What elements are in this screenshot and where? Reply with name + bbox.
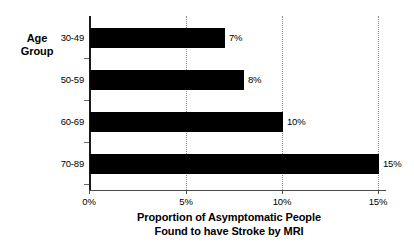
x-tick-label: 10% bbox=[262, 196, 302, 207]
bar bbox=[90, 70, 244, 90]
x-axis-line bbox=[89, 190, 386, 191]
x-tick-15 bbox=[378, 190, 379, 194]
y-category-label: 70-89 bbox=[36, 159, 84, 169]
bar bbox=[90, 112, 283, 132]
x-axis-title: Proportion of Asymptomatic People Found … bbox=[64, 211, 394, 238]
y-category-label: 60-69 bbox=[36, 117, 84, 127]
bar bbox=[90, 28, 225, 48]
y-category-label: 50-59 bbox=[36, 75, 84, 85]
bar bbox=[90, 154, 379, 174]
bar-value-label: 8% bbox=[248, 75, 261, 85]
x-axis-title-line2: Found to have Stroke by MRI bbox=[64, 225, 394, 239]
y-category-label: 30-49 bbox=[36, 33, 84, 43]
y-axis-title-line2: Group bbox=[4, 45, 70, 58]
x-tick-label: 0% bbox=[69, 196, 109, 207]
x-tick-label: 15% bbox=[358, 196, 398, 207]
bar-value-label: 15% bbox=[383, 159, 401, 169]
x-tick-5 bbox=[186, 190, 187, 194]
y-tick-4 bbox=[84, 184, 89, 185]
x-tick-0 bbox=[89, 190, 90, 194]
y-tick-3 bbox=[84, 142, 89, 143]
bar-value-label: 10% bbox=[287, 117, 305, 127]
y-tick-2 bbox=[84, 100, 89, 101]
y-tick-1 bbox=[84, 58, 89, 59]
x-axis-title-line1: Proportion of Asymptomatic People bbox=[64, 211, 394, 225]
x-tick-label: 5% bbox=[166, 196, 206, 207]
bar-value-label: 7% bbox=[229, 33, 242, 43]
bar-chart: Age Group 30-49 50-59 60-69 70-89 7% 8% … bbox=[0, 0, 414, 242]
x-tick-10 bbox=[282, 190, 283, 194]
